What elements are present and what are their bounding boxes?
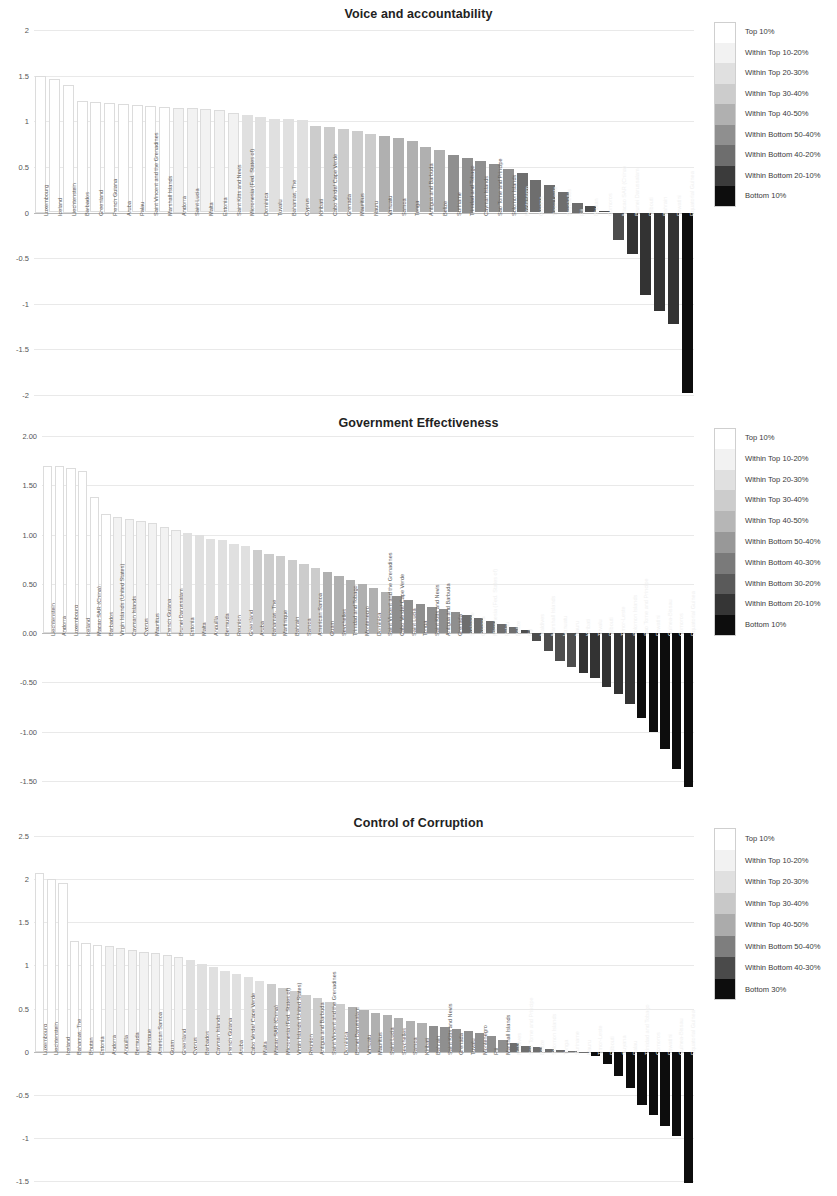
gridline (34, 922, 694, 923)
x-axis-category-label: Solomon Islands (633, 595, 639, 636)
legend-swatch[interactable] (714, 828, 736, 850)
legend-swatch[interactable] (714, 449, 736, 470)
legend-item-label: Within Top 30-40% (745, 490, 821, 511)
legend-colorbar (714, 828, 736, 1000)
legend-item-label: Within Bottom 50-40% (745, 936, 821, 958)
plot-canvas: 2.521.510.50-0.5-1-1.5LuxembourgLiechten… (34, 836, 694, 1181)
legend-item-label: Within Bottom 50-40% (745, 532, 821, 553)
chart-panel-control-of-corruption: Control of Corruption 2.521.510.50-0.5-1… (0, 810, 837, 1196)
legend-swatch[interactable] (714, 615, 736, 636)
bar (590, 633, 599, 678)
legend-swatch[interactable] (714, 914, 736, 936)
legend-swatch[interactable] (714, 166, 736, 187)
legend-swatch[interactable] (714, 22, 736, 43)
legend-swatch[interactable] (714, 490, 736, 511)
bar (163, 955, 172, 1052)
bar (55, 466, 64, 634)
legend-item-label: Bottom 10% (745, 615, 821, 636)
legend-item-label: Within Top 20-30% (745, 470, 821, 491)
x-axis-category-label: Solomon Islands (552, 1013, 558, 1054)
y-axis-tick-label: 1 (25, 117, 29, 126)
chart-title-voice-and-accountability: Voice and accountability (0, 0, 837, 21)
gridline (34, 76, 694, 77)
chart-panel-voice-and-accountability: Voice and accountability 21.510.50-0.5-1… (0, 0, 837, 410)
legend-item-label: Within Bottom 50-40% (745, 125, 821, 146)
gridline (34, 258, 694, 259)
legend-swatch[interactable] (714, 979, 736, 1001)
legend-item-label: Bottom 30% (745, 979, 821, 1001)
bar (684, 633, 693, 787)
gridline (42, 732, 694, 733)
legend-swatch[interactable] (714, 957, 736, 979)
legend-item-label: Within Top 40-50% (745, 914, 821, 936)
legend-swatch[interactable] (714, 63, 736, 84)
gridline (34, 1095, 694, 1096)
y-axis-tick-label: 0.50 (22, 579, 37, 588)
legend-item-label: Within Bottom 40-30% (745, 957, 821, 979)
legend-swatch[interactable] (714, 574, 736, 595)
y-axis-tick-label: -1 (22, 299, 29, 308)
y-axis-tick-label: 0 (25, 208, 29, 217)
x-axis-category-label: Belize (516, 621, 522, 636)
legend-item-label: Top 10% (745, 428, 821, 449)
gridline (34, 304, 694, 305)
bar (567, 633, 576, 667)
x-axis-category-label: Sao Tome and Principe (644, 578, 650, 636)
legend-swatch[interactable] (714, 553, 736, 574)
bar (637, 633, 646, 718)
legend-item-label: Within Top 20-30% (745, 63, 821, 84)
legend-swatch[interactable] (714, 936, 736, 958)
legend-swatch[interactable] (714, 871, 736, 893)
gridline (34, 1138, 694, 1139)
y-axis-tick-label: -1.50 (20, 777, 37, 786)
bar (640, 213, 651, 295)
y-axis-tick-label: -0.5 (16, 254, 29, 263)
gridline (34, 1181, 694, 1182)
legend-swatch[interactable] (714, 186, 736, 207)
legend-swatch[interactable] (714, 104, 736, 125)
bar (579, 633, 588, 672)
plot-area-government-effectiveness: 2.001.501.000.500.00-0.50-1.00-1.50Liech… (42, 436, 694, 781)
plot-area-control-of-corruption: 2.521.510.50-0.5-1-1.5LuxembourgLiechten… (34, 836, 694, 1181)
legend-swatch[interactable] (714, 43, 736, 64)
y-axis-tick-label: 1.5 (19, 71, 29, 80)
bar (118, 104, 129, 213)
legend-label-column: Top 10%Within Top 10-20%Within Top 20-30… (736, 22, 821, 207)
x-axis-category-label: Belize (540, 1039, 546, 1054)
bar (195, 535, 204, 634)
legend-government-effectiveness: Top 10%Within Top 10-20%Within Top 20-30… (714, 428, 821, 636)
y-axis-tick-label: 2.00 (22, 432, 37, 441)
bar (613, 213, 624, 240)
legend-swatch[interactable] (714, 125, 736, 146)
x-axis-category-label: Equatorial Guinea (690, 171, 696, 216)
legend-swatch[interactable] (714, 532, 736, 553)
legend-swatch[interactable] (714, 850, 736, 872)
legend-swatch[interactable] (714, 470, 736, 491)
y-axis-tick-label: 1.5 (19, 918, 29, 927)
legend-swatch[interactable] (714, 893, 736, 915)
y-axis-tick-label: 2 (25, 26, 29, 35)
legend-item-label: Within Bottom 20-10% (745, 594, 821, 615)
legend-item-label: Top 10% (745, 828, 821, 850)
gridline (34, 836, 694, 837)
gridline (34, 395, 694, 396)
legend-swatch[interactable] (714, 594, 736, 615)
y-axis-tick-label: 0 (25, 1047, 29, 1056)
legend-colorbar (714, 22, 736, 207)
legend-item-label: Within Top 30-40% (745, 893, 821, 915)
bar (49, 79, 60, 212)
legend-swatch[interactable] (714, 511, 736, 532)
bar (660, 633, 669, 749)
legend-voice-and-accountability: Top 10%Within Top 10-20%Within Top 20-30… (714, 22, 821, 207)
legend-swatch[interactable] (714, 428, 736, 449)
bar (81, 943, 90, 1052)
legend-control-of-corruption: Top 10%Within Top 10-20%Within Top 20-30… (714, 828, 821, 1000)
x-axis-category-label: Equatorial Guinea (691, 591, 697, 636)
gridline (42, 485, 694, 486)
legend-swatch[interactable] (714, 145, 736, 166)
bar (78, 471, 87, 634)
legend-swatch[interactable] (714, 84, 736, 105)
bar (626, 1052, 635, 1088)
bar (627, 213, 638, 255)
legend-body: Top 10%Within Top 10-20%Within Top 20-30… (714, 828, 821, 1000)
